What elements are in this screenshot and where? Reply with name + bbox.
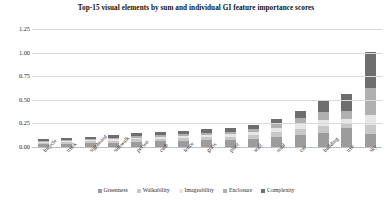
- bar-series-group: [32, 29, 382, 147]
- gridline: [32, 123, 382, 124]
- bar-segment-complexity: [341, 94, 352, 111]
- x-tick-cell: road: [265, 148, 288, 182]
- legend-label: Walkability: [143, 188, 170, 194]
- legend-swatch-icon: [179, 189, 183, 193]
- bar-column[interactable]: [335, 29, 358, 147]
- bar-column[interactable]: [55, 29, 78, 147]
- gridline: [32, 53, 382, 54]
- legend-swatch-icon: [261, 189, 265, 193]
- x-tick-cell: wall: [242, 148, 265, 182]
- legend-item-enclosure[interactable]: Enclosure: [223, 188, 252, 194]
- bar-column[interactable]: [149, 29, 172, 147]
- gridline: [32, 76, 382, 77]
- legend-swatch-icon: [98, 189, 102, 193]
- bar-segment-complexity: [365, 52, 376, 87]
- chart-container: Top-15 visual elements by sum and indivi…: [0, 0, 392, 203]
- bar-column[interactable]: [219, 29, 242, 147]
- stacked-bar-car[interactable]: [295, 111, 306, 147]
- bar-column[interactable]: [265, 29, 288, 147]
- stacked-bar-tree[interactable]: [341, 94, 352, 147]
- bar-column[interactable]: [32, 29, 55, 147]
- bar-column[interactable]: [312, 29, 335, 147]
- x-tick-cell: truck: [55, 148, 78, 182]
- x-tick-cell: signboard: [79, 148, 102, 182]
- legend-item-imageability[interactable]: Imageability: [179, 188, 214, 194]
- bar-segment-complexity: [295, 111, 306, 119]
- y-tick-1.25: 1.25: [4, 26, 30, 32]
- legend-label: Enclosure: [229, 188, 252, 194]
- legend-label: Greenness: [104, 188, 128, 194]
- bar-column[interactable]: [242, 29, 265, 147]
- x-tick-cell: car: [289, 148, 312, 182]
- bar-column[interactable]: [79, 29, 102, 147]
- gridline: [32, 100, 382, 101]
- x-tick-cell: grass: [195, 148, 218, 182]
- bar-segment-enclosure: [341, 111, 352, 119]
- legend-swatch-icon: [223, 189, 227, 193]
- x-tick-cell: curb: [149, 148, 172, 182]
- bar-column[interactable]: [195, 29, 218, 147]
- bar-column[interactable]: [172, 29, 195, 147]
- legend-item-complexity[interactable]: Complexity: [261, 188, 294, 194]
- chart-title: Top-15 visual elements by sum and indivi…: [0, 4, 392, 12]
- x-axis-tick-labels: bicycletrucksignboardsidewalkpersoncurbf…: [32, 148, 382, 182]
- x-tick-cell: bicycle: [32, 148, 55, 182]
- legend-item-walkability[interactable]: Walkability: [137, 188, 170, 194]
- bar-column[interactable]: [102, 29, 125, 147]
- legend-item-greenness[interactable]: Greenness: [98, 188, 128, 194]
- legend-label: Complexity: [267, 188, 294, 194]
- y-axis-tick-labels: 0.000.250.500.751.001.25: [0, 29, 30, 147]
- bar-segment-complexity: [318, 100, 329, 112]
- legend-swatch-icon: [137, 189, 141, 193]
- x-tick-cell: fence: [172, 148, 195, 182]
- bar-column[interactable]: [289, 29, 312, 147]
- x-tick-cell: sky: [359, 148, 382, 182]
- bar-segment-enclosure: [365, 88, 376, 115]
- chart-legend: GreennessWalkabilityImageabilityEnclosur…: [0, 185, 392, 197]
- bar-segment-walkability: [365, 125, 376, 134]
- bar-segment-walkability: [318, 126, 329, 133]
- x-tick-cell: tree: [335, 148, 358, 182]
- x-tick-cell: sidewalk: [102, 148, 125, 182]
- y-tick-1.00: 1.00: [4, 50, 30, 56]
- y-tick-0.75: 0.75: [4, 73, 30, 79]
- x-tick-cell: building: [312, 148, 335, 182]
- legend-label: Imageability: [185, 188, 214, 194]
- y-tick-0.00: 0.00: [4, 144, 30, 150]
- bar-segment-enclosure: [318, 112, 329, 120]
- y-tick-0.50: 0.50: [4, 97, 30, 103]
- gridline: [32, 29, 382, 30]
- plot-area: [32, 29, 382, 147]
- y-tick-0.25: 0.25: [4, 120, 30, 126]
- bar-column[interactable]: [125, 29, 148, 147]
- bar-column[interactable]: [359, 29, 382, 147]
- x-tick-cell: plant: [219, 148, 242, 182]
- x-tick-cell: person: [125, 148, 148, 182]
